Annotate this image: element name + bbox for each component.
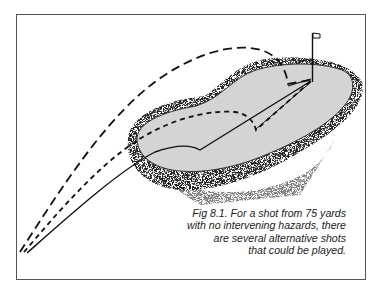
putting-green <box>137 64 353 172</box>
caption-line-2: with no intervening hazards, there <box>146 219 346 231</box>
caption-line-3: are several alternative shots <box>146 232 346 244</box>
figure-caption: Fig 8.1. For a shot from 75 yards with n… <box>146 207 346 257</box>
caption-line-4: that could be played. <box>146 244 346 256</box>
caption-line-1: Fig 8.1. For a shot from 75 yards <box>146 207 346 219</box>
